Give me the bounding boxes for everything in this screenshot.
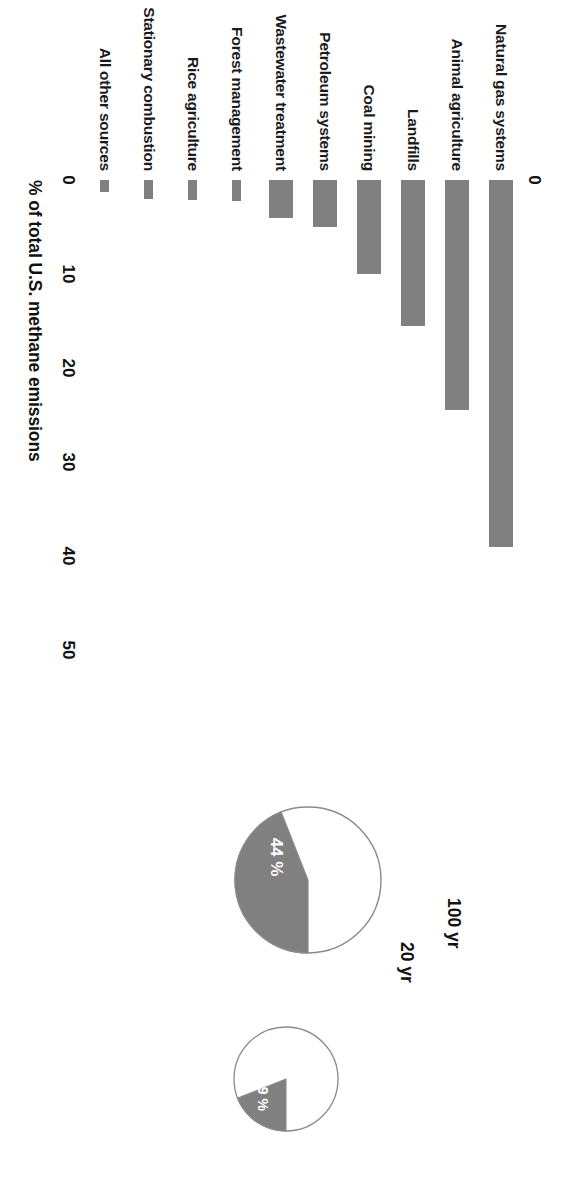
x-axis-title: % of total U.S. methane emissions bbox=[24, 180, 45, 650]
bar-category-label: Rice agriculture bbox=[184, 57, 202, 180]
pie-100yr-caption: 100 yr bbox=[443, 898, 464, 949]
bar-value bbox=[189, 180, 198, 200]
x-axis-tick-label: 10 bbox=[58, 265, 78, 284]
bar-category-label: Wastewater treatment bbox=[272, 14, 290, 180]
bar-row: Forest management bbox=[225, 180, 249, 650]
x-axis-tick-label: 40 bbox=[58, 547, 78, 566]
methane-emissions-figure: Natural gas systemsAnimal agricultureLan… bbox=[0, 0, 583, 1179]
pie-100yr-slice-label: 19 % bbox=[255, 1079, 271, 1111]
bar-category-label: Animal agriculture bbox=[448, 39, 466, 181]
bar-row: All other sources bbox=[93, 180, 117, 650]
bar-category-label: Forest management bbox=[228, 27, 246, 180]
figure-canvas: Natural gas systemsAnimal agricultureLan… bbox=[0, 0, 583, 1179]
x-axis-tick-label: 20 bbox=[58, 359, 78, 378]
bar-chart: Natural gas systemsAnimal agricultureLan… bbox=[0, 0, 583, 790]
bar-value bbox=[489, 180, 513, 547]
bar-row: Natural gas systems bbox=[489, 180, 513, 650]
bar-row: Wastewater treatment bbox=[269, 180, 293, 650]
pie-chart-100yr: 19 % bbox=[232, 1025, 340, 1133]
bar-value bbox=[269, 180, 293, 218]
pie-chart-20yr: 44 % bbox=[233, 805, 383, 955]
bar-category-label: All other sources bbox=[96, 48, 114, 180]
bar-category-label: Petroleum systems bbox=[316, 32, 334, 180]
bar-row: Coal mining bbox=[357, 180, 381, 650]
bar-plot-area: Natural gas systemsAnimal agricultureLan… bbox=[83, 180, 523, 650]
bar-row: Animal agriculture bbox=[445, 180, 469, 650]
bar-row: Rice agriculture bbox=[181, 180, 205, 650]
bar-value bbox=[233, 180, 242, 201]
pie-100yr-svg: 19 % bbox=[232, 1025, 340, 1133]
bar-value bbox=[357, 180, 381, 274]
bar-value bbox=[401, 180, 425, 326]
pie-20yr-svg: 44 % bbox=[233, 805, 383, 955]
pie-chart-group: 44 % 19 % 20 yr 100 yr bbox=[0, 790, 583, 1179]
bar-category-label: Natural gas systems bbox=[492, 24, 510, 180]
y-axis-line bbox=[83, 180, 523, 181]
bar-value bbox=[101, 180, 110, 192]
bar-value bbox=[445, 180, 469, 410]
pie-20yr-slice-label: 44 % bbox=[267, 838, 286, 877]
x-axis-tick-label: 30 bbox=[58, 453, 78, 472]
bar-value bbox=[313, 180, 337, 227]
bar-row: Stationary combustion bbox=[137, 180, 161, 650]
bar-category-label: Stationary combustion bbox=[140, 7, 158, 180]
pie-20yr-caption: 20 yr bbox=[396, 942, 417, 983]
x-axis-tick-label: 50 bbox=[58, 641, 78, 660]
x-axis-tick-label: 0 bbox=[58, 175, 78, 184]
bar-category-label: Landfills bbox=[404, 109, 422, 180]
bar-category-label: Coal mining bbox=[360, 85, 378, 181]
bar-value bbox=[145, 180, 154, 199]
bar-row: Petroleum systems bbox=[313, 180, 337, 650]
x-axis-tick-label-zero-top: 0 bbox=[524, 175, 544, 184]
bar-row: Landfills bbox=[401, 180, 425, 650]
